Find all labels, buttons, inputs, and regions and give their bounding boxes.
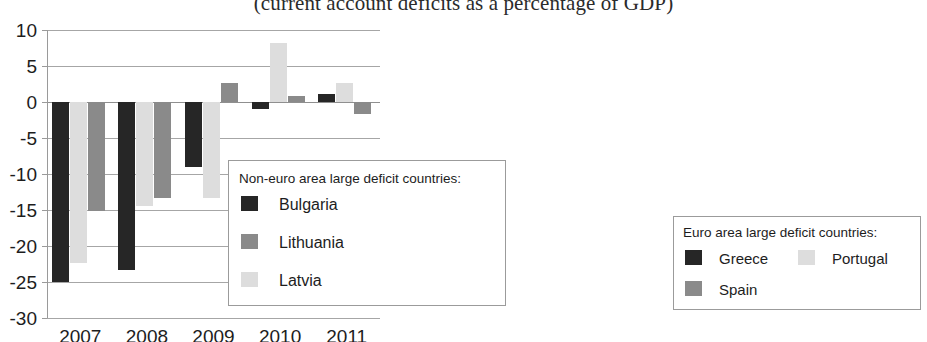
- left-y-axis: [47, 30, 48, 318]
- left-x-label-2011: 2011: [313, 326, 380, 342]
- left-y-label: 5: [26, 57, 37, 76]
- bar-bulgaria-2009: [185, 102, 202, 167]
- bar-bulgaria-2007: [52, 102, 69, 282]
- legend-left-swatch-latvia: [241, 272, 258, 287]
- legend-left-title: Non-euro area large deficit countries:: [239, 171, 461, 186]
- bar-lithuania-2007: [88, 102, 105, 211]
- bar-lithuania-2009: [221, 83, 238, 102]
- legend-right-title: Euro area large deficit countries:: [683, 225, 877, 240]
- chart-panel-left: 1050-5-10-15-20-25-302007200820092010201…: [0, 0, 470, 342]
- left-y-label: -30: [10, 309, 37, 328]
- legend-right-swatch-spain: [685, 281, 702, 296]
- legend-right-swatch-greece: [685, 250, 702, 265]
- bar-latvia-2007: [70, 102, 87, 263]
- left-gridline: [47, 30, 380, 31]
- legend-right-label-portugal: Portugal: [832, 251, 888, 266]
- bar-latvia-2010: [270, 43, 287, 102]
- left-y-label: -5: [20, 129, 37, 148]
- legend-left-label-bulgaria: Bulgaria: [279, 197, 338, 213]
- bar-lithuania-2008: [154, 102, 171, 198]
- left-y-label: -20: [10, 237, 37, 256]
- left-x-label-2010: 2010: [247, 326, 314, 342]
- bar-bulgaria-2011: [318, 94, 335, 102]
- bar-latvia-2008: [136, 102, 153, 206]
- left-x-label-2007: 2007: [47, 326, 114, 342]
- left-x-label-2009: 2009: [180, 326, 247, 342]
- left-gridline: [47, 66, 380, 67]
- left-x-label-2008: 2008: [114, 326, 181, 342]
- bar-lithuania-2011: [354, 102, 371, 114]
- bar-bulgaria-2008: [118, 102, 135, 270]
- chart-panel-right: 1050-5-10-15-20-25-302007200820092010201…: [470, 0, 927, 342]
- left-y-label: -15: [10, 201, 37, 220]
- bar-latvia-2009: [203, 102, 220, 198]
- left-gridline: [47, 318, 380, 319]
- legend-left-swatch-bulgaria: [241, 196, 258, 211]
- legend-left-box: Non-euro area large deficit countries:Bu…: [228, 160, 506, 306]
- figure-root: (current account deficits as a percentag…: [0, 0, 927, 342]
- left-y-label: 10: [16, 21, 37, 40]
- legend-left-swatch-lithuania: [241, 234, 258, 249]
- left-y-label: -25: [10, 273, 37, 292]
- bar-bulgaria-2010: [252, 102, 269, 109]
- legend-right-label-greece: Greece: [719, 251, 768, 266]
- legend-right-box: Euro area large deficit countries:Greece…: [673, 216, 921, 310]
- legend-left-label-latvia: Latvia: [279, 273, 322, 289]
- legend-left-label-lithuania: Lithuania: [279, 235, 344, 251]
- left-y-label: 0: [26, 93, 37, 112]
- legend-right-label-spain: Spain: [719, 282, 757, 297]
- legend-right-swatch-portugal: [798, 250, 815, 265]
- bar-lithuania-2010: [288, 96, 305, 102]
- bar-latvia-2011: [336, 83, 353, 102]
- left-y-label: -10: [10, 165, 37, 184]
- left-y-tick: [42, 318, 47, 319]
